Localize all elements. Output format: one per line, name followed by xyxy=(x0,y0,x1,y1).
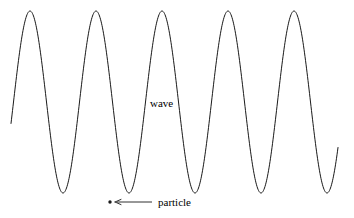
wave-curve-group xyxy=(11,11,338,193)
particle-label: particle xyxy=(157,197,192,208)
sine-wave-path xyxy=(11,11,338,193)
particle-dot-icon xyxy=(108,200,111,203)
wave-graphic xyxy=(0,0,354,218)
wave-particle-diagram: wave particle xyxy=(0,0,354,218)
wave-label: wave xyxy=(149,98,174,109)
particle-annotation-group xyxy=(108,199,152,204)
